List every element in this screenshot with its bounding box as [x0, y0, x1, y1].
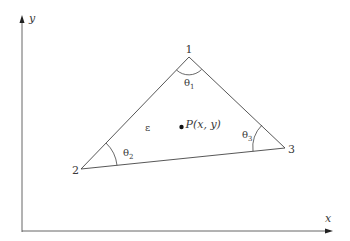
x-axis-arrowhead-icon [325, 229, 333, 234]
angle-label-theta-3: θ3 [242, 129, 253, 143]
angle-label-theta-1: θ1 [184, 77, 195, 91]
angle-label-theta-2: θ2 [123, 147, 134, 161]
y-axis-arrowhead-icon [20, 15, 25, 23]
vertex-label-3: 3 [288, 143, 295, 156]
y-axis-label: y [28, 12, 36, 25]
vertex-label-2: 2 [72, 164, 79, 177]
triangle-element-diagram: y x 1 2 3 θ1 θ2 θ3 ε P(x, y) [0, 0, 350, 241]
angle-arc-3 [253, 125, 262, 151]
vertex-label-1: 1 [186, 43, 193, 56]
x-axis-label: x [325, 212, 332, 225]
point-p-dot-icon [179, 125, 183, 129]
element-label-epsilon: ε [145, 122, 150, 133]
angle-arc-1 [177, 70, 202, 75]
coordinate-axes: y x [20, 12, 334, 234]
angle-arc-2 [106, 143, 117, 165]
point-p-label: P(x, y) [185, 118, 221, 131]
